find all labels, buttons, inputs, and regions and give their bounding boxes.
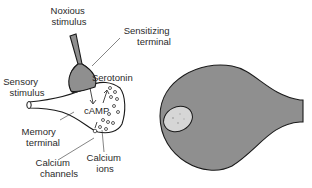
label-sensory-stimulus: Sensory stimulus <box>3 76 44 98</box>
label-calcium-ions: Calcium ions <box>87 152 124 174</box>
label-calcium-channels: Calcium channels <box>36 157 79 179</box>
label-memory-terminal: Memory terminal <box>22 126 60 148</box>
neuron-diagram: Noxious stimulus Sensitizing terminal Se… <box>0 0 312 188</box>
diagram-canvas: Noxious stimulus Sensitizing terminal Se… <box>0 0 312 188</box>
label-serotonin: Serotonin <box>92 72 133 83</box>
label-sensitizing-terminal: Sensitizing terminal <box>124 25 173 47</box>
label-camp: cAMP <box>84 105 109 116</box>
label-noxious-stimulus: Noxious stimulus <box>51 5 88 27</box>
axon-cut-end <box>27 102 31 109</box>
